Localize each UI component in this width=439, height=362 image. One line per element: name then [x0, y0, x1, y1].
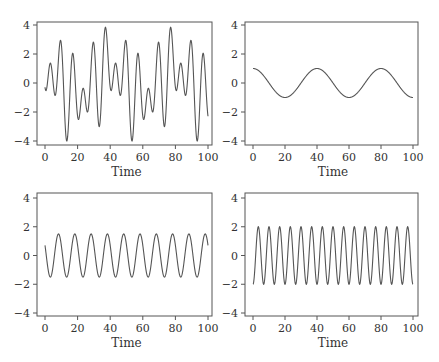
y-tick-label: 2 [23, 221, 30, 234]
series-line [45, 234, 208, 277]
plot-frame [245, 193, 418, 316]
x-tick-label: 60 [136, 322, 150, 335]
x-axis-label: Time [318, 336, 348, 350]
y-tick-label: 4 [23, 19, 30, 32]
x-tick-label: 80 [168, 322, 182, 335]
y-tick-label: −2 [14, 278, 30, 291]
x-tick-label: 100 [198, 151, 219, 164]
y-tick-label: 2 [23, 48, 30, 61]
panel-bottom-left: 020406080100420−2−4Time [14, 192, 219, 350]
x-tick-label: 60 [136, 151, 150, 164]
x-tick-label: 80 [168, 151, 182, 164]
x-tick-label: 60 [342, 151, 356, 164]
x-tick-label: 40 [310, 151, 324, 164]
x-tick-label: 80 [374, 151, 388, 164]
plot-frame [245, 22, 418, 145]
x-tick-label: 40 [310, 322, 324, 335]
y-tick-label: 4 [231, 192, 238, 205]
y-tick-label: 2 [231, 48, 238, 61]
x-tick-label: 0 [250, 322, 257, 335]
x-tick-label: 100 [403, 151, 424, 164]
y-tick-label: 0 [23, 250, 30, 263]
series-line [253, 227, 413, 285]
figure: 020406080100420−2−4Time 020406080100420−… [0, 0, 439, 362]
x-tick-label: 0 [42, 322, 49, 335]
x-tick-label: 40 [103, 151, 117, 164]
y-tick-label: 4 [231, 19, 238, 32]
x-tick-label: 80 [374, 322, 388, 335]
y-tick-label: 0 [231, 77, 238, 90]
x-tick-label: 0 [42, 151, 49, 164]
x-axis-label: Time [111, 165, 141, 179]
plot-frame [37, 193, 212, 316]
x-tick-label: 20 [71, 151, 85, 164]
x-tick-label: 60 [342, 322, 356, 335]
y-tick-label: −2 [14, 106, 30, 119]
x-tick-label: 0 [250, 151, 257, 164]
y-tick-label: 0 [23, 77, 30, 90]
x-axis-label: Time [318, 165, 348, 179]
panel-top-right: 020406080100420−2−4Time [222, 19, 424, 179]
x-tick-label: 20 [278, 151, 292, 164]
panel-top-left: 020406080100420−2−4Time [14, 19, 219, 179]
x-tick-label: 40 [103, 322, 117, 335]
y-tick-label: −4 [222, 135, 238, 148]
x-tick-label: 100 [403, 322, 424, 335]
y-tick-label: −4 [222, 307, 238, 320]
y-tick-label: 0 [231, 250, 238, 263]
panel-bottom-right: 020406080100420−2−4Time [222, 192, 424, 350]
y-tick-label: −4 [14, 307, 30, 320]
y-tick-label: 2 [231, 221, 238, 234]
x-tick-label: 100 [198, 322, 219, 335]
series-line [253, 69, 413, 98]
y-tick-label: −4 [14, 135, 30, 148]
series-line [45, 27, 208, 141]
x-tick-label: 20 [71, 322, 85, 335]
x-tick-label: 20 [278, 322, 292, 335]
y-tick-label: −2 [222, 278, 238, 291]
y-tick-label: −2 [222, 106, 238, 119]
x-axis-label: Time [111, 336, 141, 350]
y-tick-label: 4 [23, 192, 30, 205]
